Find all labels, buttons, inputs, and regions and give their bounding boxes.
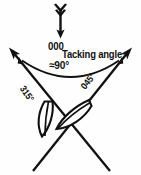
angle-value-label: ≈90° bbox=[49, 60, 69, 71]
tacking-angle-diagram: 000 Tacking angle ≈90° 315° 045° bbox=[0, 0, 141, 175]
starboard-boat-hull bbox=[57, 100, 92, 129]
angle-arc-path bbox=[22, 61, 119, 78]
angle-arc bbox=[18, 57, 124, 77]
tacking-angle-label: Tacking angle bbox=[62, 49, 122, 60]
port-boat-hull bbox=[39, 102, 53, 137]
wind-heading-arrow bbox=[54, 3, 67, 38]
